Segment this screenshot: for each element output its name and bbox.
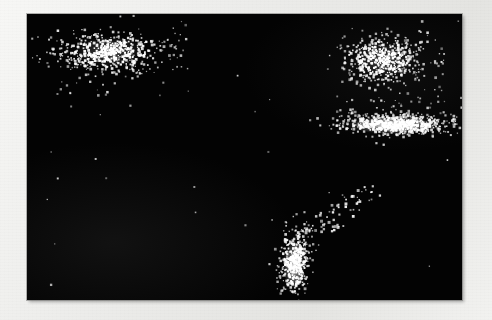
figure-root bbox=[0, 0, 492, 320]
cluster-core-glows bbox=[75, 37, 436, 288]
scatter-points-layer bbox=[31, 15, 462, 300]
plot-area bbox=[27, 14, 462, 300]
scatter-plot bbox=[27, 14, 462, 300]
